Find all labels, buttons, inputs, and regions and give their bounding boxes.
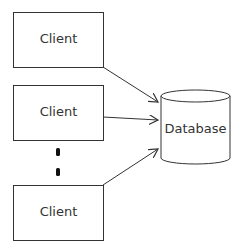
client-label-1: Client (13, 31, 104, 46)
arrow-client2-db (103, 117, 158, 120)
ellipsis-dot-2 (56, 168, 60, 176)
client-label-2: Client (13, 104, 104, 119)
arrow-client3-db (103, 149, 158, 185)
arrow-client1-db (103, 67, 158, 102)
ellipsis-dot-1 (56, 148, 60, 156)
client-label-3: Client (13, 204, 104, 219)
database-label: Database (161, 121, 230, 136)
